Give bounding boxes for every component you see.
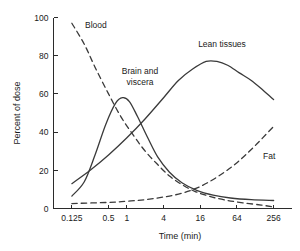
x-axis-ticks <box>72 205 274 209</box>
x-tick-label: 1 <box>125 213 130 223</box>
y-tick-label: 100 <box>34 13 48 23</box>
series-label-brain-line1: Brain and <box>122 66 159 76</box>
x-tick-label: 256 <box>267 213 281 223</box>
y-axis-tick-labels: 020406080100 <box>34 13 48 214</box>
curve-fat <box>72 126 274 203</box>
series-label-lean-tissues: Lean tissues <box>198 39 246 49</box>
x-tick-label: 0.5 <box>103 213 115 223</box>
series-label-brain-line2: viscera <box>127 77 154 87</box>
y-axis-ticks <box>54 18 58 209</box>
y-tick-label: 40 <box>39 127 49 137</box>
y-axis-title: Percent of dose <box>12 81 22 144</box>
series-label-blood: Blood <box>85 20 107 30</box>
y-tick-label: 80 <box>39 51 49 61</box>
y-tick-label: 0 <box>44 204 49 214</box>
chart-svg: 020406080100 0.1250.5141664256 Percent o… <box>0 0 300 251</box>
x-axis-title: Time (min) <box>159 231 202 241</box>
data-series-group <box>72 23 274 207</box>
x-tick-label: 16 <box>196 213 206 223</box>
x-tick-label: 4 <box>161 213 166 223</box>
series-label-fat: Fat <box>263 151 276 161</box>
curve-blood <box>72 23 274 207</box>
axes <box>54 18 293 209</box>
axis-lines <box>54 18 293 209</box>
y-tick-label: 60 <box>39 89 49 99</box>
curve-lean-tissues <box>72 61 274 184</box>
x-axis-tick-labels: 0.1250.5141664256 <box>61 213 281 223</box>
x-tick-label: 0.125 <box>61 213 83 223</box>
curve-brain-and-viscera <box>72 98 274 201</box>
chart-figure: 020406080100 0.1250.5141664256 Percent o… <box>0 0 300 251</box>
y-tick-label: 20 <box>39 166 49 176</box>
x-tick-label: 64 <box>232 213 242 223</box>
